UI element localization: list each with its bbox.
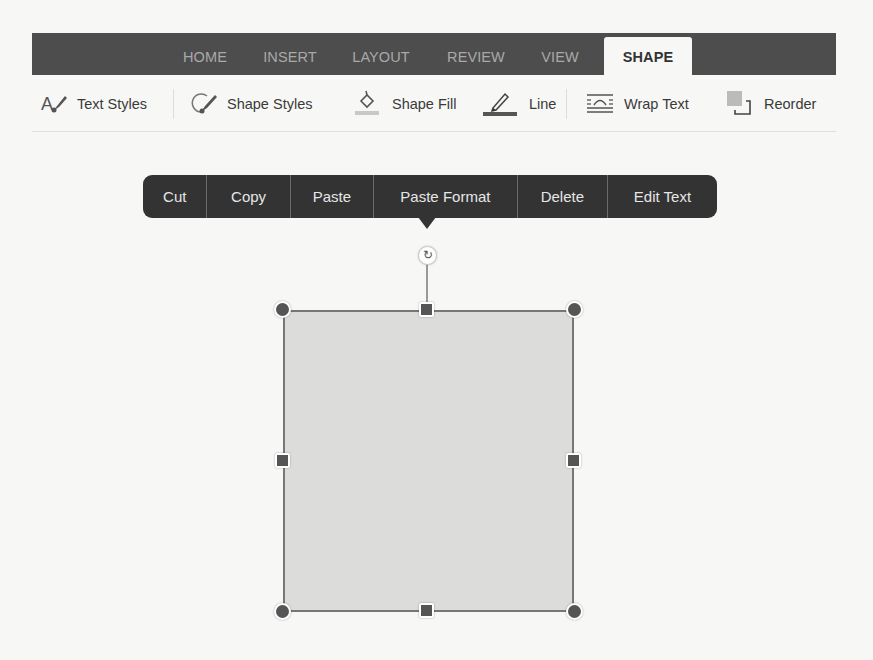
- menu-item-cut[interactable]: Cut: [143, 175, 207, 218]
- menu-item-copy[interactable]: Copy: [207, 175, 290, 218]
- shape-styles-button[interactable]: Shape Styles: [191, 88, 312, 120]
- context-menu-arrow: [418, 217, 436, 229]
- resize-handle-bottom-right[interactable]: [566, 603, 583, 620]
- rotate-icon[interactable]: ↻: [418, 246, 437, 265]
- menu-item-paste[interactable]: Paste: [291, 175, 374, 218]
- resize-handle-top[interactable]: [419, 302, 434, 317]
- resize-handle-right[interactable]: [566, 453, 581, 468]
- reorder-label: Reorder: [764, 96, 816, 112]
- wrap-text-icon: [586, 93, 614, 116]
- paint-bucket-icon: [354, 90, 380, 119]
- ribbon-tab-bar: HOME INSERT LAYOUT REVIEW VIEW SHAPE: [32, 33, 836, 75]
- shape-styles-label: Shape Styles: [227, 96, 312, 112]
- resize-handle-bottom[interactable]: [419, 603, 434, 618]
- selected-rectangle-shape[interactable]: [283, 310, 574, 612]
- tab-review[interactable]: REVIEW: [438, 33, 514, 75]
- resize-handle-bottom-left[interactable]: [274, 603, 291, 620]
- reorder-icon: [726, 90, 752, 119]
- menu-item-paste-format[interactable]: Paste Format: [374, 175, 518, 218]
- toolbar-divider: [173, 89, 174, 119]
- text-styles-button[interactable]: A Text Styles: [41, 88, 147, 120]
- line-button[interactable]: Line: [483, 88, 556, 120]
- resize-handle-left[interactable]: [275, 453, 290, 468]
- tab-shape[interactable]: SHAPE: [604, 37, 692, 75]
- text-styles-label: Text Styles: [77, 96, 147, 112]
- toolbar-divider: [566, 89, 567, 119]
- wrap-text-button[interactable]: Wrap Text: [586, 88, 689, 120]
- pen-icon: [483, 90, 517, 119]
- tab-insert[interactable]: INSERT: [257, 33, 323, 75]
- text-brush-icon: A: [41, 93, 69, 116]
- reorder-button[interactable]: Reorder: [726, 88, 816, 120]
- shape-toolbar: A Text Styles Shape Styles Shape Fill: [32, 75, 836, 132]
- context-menu: Cut Copy Paste Paste Format Delete Edit …: [143, 175, 717, 218]
- tab-layout[interactable]: LAYOUT: [344, 33, 418, 75]
- menu-item-delete[interactable]: Delete: [518, 175, 608, 218]
- menu-item-edit-text[interactable]: Edit Text: [608, 175, 717, 218]
- resize-handle-top-left[interactable]: [274, 301, 291, 318]
- shape-fill-label: Shape Fill: [392, 96, 456, 112]
- resize-handle-top-right[interactable]: [566, 301, 583, 318]
- shape-fill-button[interactable]: Shape Fill: [354, 88, 456, 120]
- tab-home[interactable]: HOME: [177, 33, 233, 75]
- tab-view[interactable]: VIEW: [534, 33, 586, 75]
- line-label: Line: [529, 96, 556, 112]
- wrap-text-label: Wrap Text: [624, 96, 689, 112]
- svg-text:A: A: [41, 94, 53, 113]
- shape-brush-icon: [191, 92, 219, 117]
